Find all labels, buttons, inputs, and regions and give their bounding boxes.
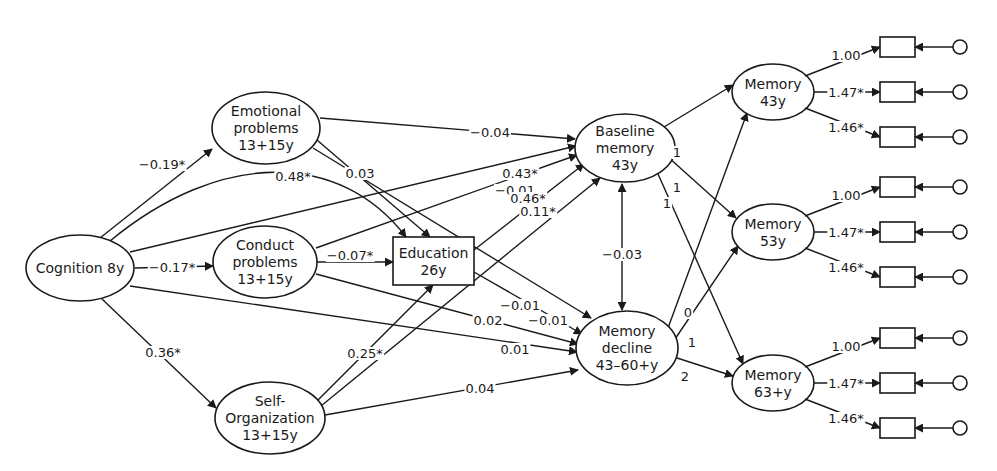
edge-label-base-decl: −0.03 [601,247,643,262]
edge-label-base-m63: 1 [662,196,672,211]
edge-label-cog-decl: 0.01 [500,342,531,357]
edge-label-con-edu: −0.07* [326,248,375,263]
node-label-line: Self- [255,393,286,409]
edge-label-cog-self: 0.36* [144,345,182,360]
coefficient-label: 0.48* [275,169,311,184]
coefficient-label: 0.25* [347,346,383,361]
node-decl: Memorydecline43–60+y [576,311,678,385]
node-label-line: Memory [745,216,802,232]
error-term-circle [953,376,967,390]
edge-label-edu-base: 0.46* [509,191,547,206]
indicator-box [880,267,915,287]
node-label-line: 43y [760,93,786,109]
loading-value: 1.46* [828,260,864,275]
node-edu: Education26y [393,237,474,285]
indicator-box [880,127,915,147]
node-base: Baselinememory43y [575,114,675,182]
edge-self-base [321,178,600,406]
edge-emo-base [320,118,575,139]
edge-label-cog-emo: −0.19* [138,157,187,172]
edge-label-emo-edu: 0.03 [345,166,376,181]
coefficient-label: 0.02 [474,313,503,328]
coefficient-label: 0.04 [466,381,495,396]
node-m43: Memory43y [732,64,814,120]
loading-value: 1.00 [832,188,861,203]
error-term-circle [953,331,967,345]
error-term-circle [953,225,967,239]
node-label-line: memory [596,140,655,156]
loading-label: 1.46* [827,120,865,135]
edge-label-con-decl: 0.02 [473,313,504,328]
edge-cog-base [130,146,576,252]
node-label-line: Baseline [595,123,654,139]
loading-value: 1.46* [828,411,864,426]
error-term-circle [953,130,967,144]
node-label-line: problems [232,254,297,270]
edge-decl-m53 [675,246,738,339]
coefficient-label: −0.17* [149,260,196,275]
loading-label: 1.00 [831,48,862,63]
node-label-line: Conduct [236,237,295,253]
node-con: Conductproblems13+15y [213,226,317,298]
node-cog: Cognition 8y [26,235,134,301]
loading-label: 1.47* [827,85,865,100]
coefficient-label: −0.01 [528,313,568,328]
node-m53: Memory53y [732,204,814,260]
indicator-box [880,373,915,393]
error-term-circle [953,270,967,284]
edge-self-edu [318,285,433,400]
node-self: Self-Organization13+15y [215,382,325,454]
edge-label-base-m43: 1 [672,145,682,160]
node-label-line: Memory [599,323,656,339]
edge-label-decl-m43: 0 [683,305,693,320]
edge-label-self-decl: 0.04 [465,381,496,396]
loading-value: 1.46* [828,120,864,135]
node-label-line: Education [399,245,469,261]
edge-self-decl [325,370,578,415]
coefficient-label: −0.19* [139,157,186,172]
edge-label-base-m53: 1 [672,180,682,195]
node-label-line: Organization [225,410,315,426]
loading-value: 1.00 [832,48,861,63]
edge-emo-edu [317,140,430,237]
node-label-line: decline [602,340,652,356]
coefficient-label: −0.04 [470,125,510,140]
node-label-line: Cognition 8y [36,260,124,276]
node-m63: Memory63+y [732,355,814,411]
error-term-circle [953,40,967,54]
coefficient-label: −0.01 [500,298,540,313]
error-term-circle [953,421,967,435]
node-label-line: problems [233,120,298,136]
edge-label-emo-base: −0.04 [469,125,511,140]
edge-base-m43 [664,85,733,127]
node-label-line: Emotional [231,103,301,119]
loading-label: 1.00 [831,188,862,203]
edge-label-decl-m63: 2 [680,369,690,384]
error-term-circle [953,180,967,194]
node-label-line: 63+y [754,384,792,400]
path-diagram: Cognition 8yEmotionalproblems13+15yCondu… [0,0,997,471]
edge-label-emo-decl: −0.01 [527,313,569,328]
indicator-box [880,222,915,242]
loading-label: 1.46* [827,411,865,426]
loading-value: 1.47* [828,225,864,240]
node-label-line: 26y [420,262,446,278]
indicator-box [880,82,915,102]
loading-label: 1.46* [827,260,865,275]
loading-value: 1.47* [828,85,864,100]
node-label-line: 53y [760,233,786,249]
coefficient-label: 0 [684,305,692,320]
loading-label: 1.00 [831,339,862,354]
indicator-box [880,418,915,438]
coefficient-label: 2 [681,369,689,384]
indicator-box [880,37,915,57]
node-label-line: Memory [745,76,802,92]
coefficient-label: 0.03 [346,166,375,181]
edge-label-edu-decl: −0.01 [499,298,541,313]
edge-label-decl-m53: 1 [687,335,697,350]
indicator-box [880,177,915,197]
loading-value: 1.00 [832,339,861,354]
coefficient-label: 0.36* [145,345,181,360]
node-emo: Emotionalproblems13+15y [212,92,320,164]
node-label-line: 13+15y [237,271,293,287]
